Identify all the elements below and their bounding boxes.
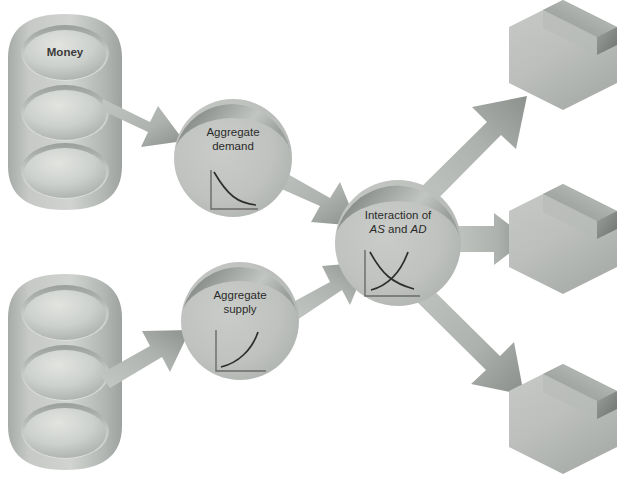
outcome-hex-middle [509, 184, 617, 294]
lower-disc-1 [24, 290, 106, 340]
money-disc-2 [24, 90, 106, 140]
money-disc-3 [24, 148, 106, 198]
money-cylinder [8, 14, 122, 210]
aggregate-supply-node [181, 262, 299, 380]
diagram-canvas: Money Aggregate demand Aggregate supply … [0, 0, 618, 480]
aggregate-demand-node [174, 99, 292, 217]
diagram-graphics [0, 0, 618, 480]
lower-disc-2 [24, 350, 106, 400]
money-disc-1 [24, 30, 106, 80]
lower-disc-3 [24, 408, 106, 458]
outcome-hex-top [509, 0, 617, 110]
outcome-hex-bottom [509, 364, 617, 474]
interaction-as-ad-node [335, 180, 461, 306]
